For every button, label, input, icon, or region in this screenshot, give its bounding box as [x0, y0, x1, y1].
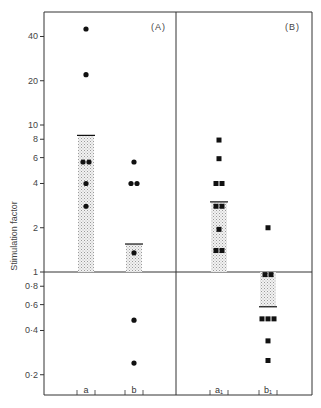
svg-text:10: 10: [28, 120, 38, 130]
mean-bars: [77, 135, 277, 306]
svg-text:b₁: b₁: [264, 385, 272, 395]
svg-text:a₁: a₁: [215, 385, 223, 395]
x-category-labels: aba₁b₁: [77, 385, 277, 395]
svg-text:6: 6: [33, 153, 38, 163]
y-axis-label: Stimulation factor: [9, 201, 19, 271]
svg-text:b: b: [131, 385, 136, 395]
svg-text:a: a: [83, 385, 88, 395]
svg-text:0·8: 0·8: [25, 281, 38, 291]
stimulation-factor-chart: 0·20·40·60·812468102040 aba₁b₁ Stimulati…: [0, 0, 321, 408]
y-axis: 0·20·40·60·812468102040: [25, 31, 44, 379]
svg-text:20: 20: [28, 76, 38, 86]
svg-text:40: 40: [28, 31, 38, 41]
svg-text:1: 1: [33, 267, 38, 277]
svg-text:2: 2: [33, 223, 38, 233]
panel-label-b: (B): [285, 22, 300, 32]
panel-label-a: (A): [151, 22, 166, 32]
svg-text:0·2: 0·2: [25, 370, 38, 380]
figure-caption-cropped: [2, 399, 320, 408]
svg-text:0·6: 0·6: [25, 300, 38, 310]
svg-text:0·4: 0·4: [25, 325, 38, 335]
data-points: [80, 26, 276, 365]
svg-text:8: 8: [33, 134, 38, 144]
svg-text:4: 4: [33, 178, 38, 188]
